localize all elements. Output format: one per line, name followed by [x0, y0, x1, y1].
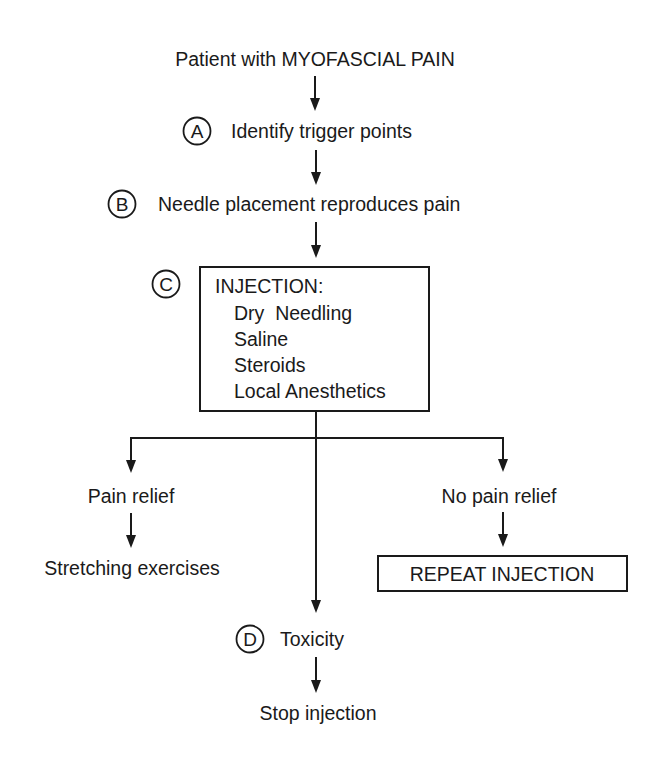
node-no-pain-relief: No pain relief — [442, 485, 557, 507]
marker-a-letter: A — [191, 121, 204, 142]
node-patient-myofascial-pain: Patient with MYOFASCIAL PAIN — [175, 48, 455, 70]
step-a: A Identify trigger points — [184, 118, 413, 145]
injection-option-local-anesthetics: Local Anesthetics — [234, 380, 386, 402]
arrow-down-icon — [498, 459, 508, 472]
injection-option-dry-needling: Dry Needling — [234, 302, 352, 324]
arrow-down-icon — [126, 535, 136, 548]
node-needle-placement: Needle placement reproduces pain — [158, 193, 460, 215]
node-stretching-exercises: Stretching exercises — [44, 557, 220, 579]
node-toxicity: Toxicity — [280, 628, 344, 650]
node-pain-relief: Pain relief — [88, 485, 175, 507]
branch-no-pain-relief: No pain relief REPEAT INJECTION — [378, 485, 627, 591]
flowchart-svg: Patient with MYOFASCIAL PAIN A Identify … — [0, 0, 664, 761]
marker-c-letter: C — [159, 274, 173, 295]
branch-pain-relief: Pain relief Stretching exercises — [44, 485, 220, 579]
injection-option-saline: Saline — [234, 328, 288, 350]
arrow-down-icon — [311, 680, 321, 693]
marker-b-letter: B — [116, 194, 129, 215]
flowchart-canvas: Patient with MYOFASCIAL PAIN A Identify … — [0, 0, 664, 761]
node-stop-injection: Stop injection — [259, 702, 376, 724]
injection-heading: INJECTION: — [215, 275, 323, 297]
step-d-toxicity: D Toxicity Stop injection — [237, 626, 377, 725]
arrow-down-icon — [311, 150, 321, 185]
injection-option-steroids: Steroids — [234, 354, 306, 376]
arrow-down-icon — [498, 534, 508, 547]
step-b: B Needle placement reproduces pain — [109, 191, 461, 218]
arrow-down-icon — [310, 76, 320, 111]
arrow-down-icon — [311, 222, 321, 258]
marker-d-letter: D — [243, 629, 257, 650]
arrow-down-icon — [126, 460, 136, 473]
step-c-injection-box: C INJECTION: Dry Needling Saline Steroid… — [153, 267, 430, 411]
node-repeat-injection: REPEAT INJECTION — [410, 563, 595, 585]
arrow-down-icon — [311, 600, 321, 613]
node-identify-trigger-points: Identify trigger points — [231, 120, 412, 142]
